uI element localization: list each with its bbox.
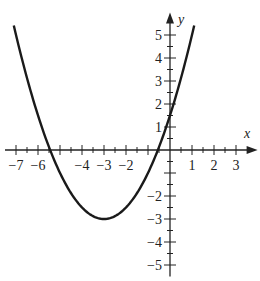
x-tick-label: −6 [31,158,46,173]
axes [5,13,258,277]
y-tick-label: 5 [155,28,162,43]
parabola-curve [14,26,194,219]
y-tick-label: −2 [147,189,162,204]
y-tick-label: 1 [155,120,162,135]
x-tick-label: −2 [119,158,134,173]
y-tick-label: −5 [147,258,162,273]
x-tick-label: −3 [97,158,112,173]
y-tick-label: −3 [147,212,162,227]
x-tick-label: 1 [189,158,196,173]
x-tick-label: −4 [75,158,90,173]
x-tick-label: −7 [9,158,24,173]
y-tick-label: 4 [155,51,162,66]
x-axis-label: x [243,126,251,141]
graph: −7−6−4−3−212354321−2−3−4−5 x y [0,0,260,281]
y-axis-label: y [176,12,185,27]
y-tick-label: 3 [155,74,162,89]
y-axis-arrow-icon [166,13,174,24]
x-tick-label: 3 [233,158,240,173]
x-axis-arrow-icon [247,146,258,154]
y-tick-label: −4 [147,235,162,250]
y-tick-label: 2 [155,97,162,112]
x-tick-label: 2 [211,158,218,173]
